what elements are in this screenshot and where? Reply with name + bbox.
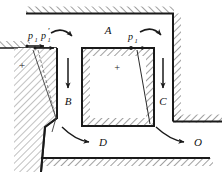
top-ground-mass [26, 7, 174, 14]
plus-mark-center: + [114, 62, 121, 73]
label-p1-left-subscript: 1 [35, 36, 38, 43]
label-p1-left-base: p [27, 30, 33, 41]
label-pressure-p1-prime-left: p 1 ' [40, 26, 51, 44]
label-p1-right-subscript: 1 [135, 37, 138, 44]
central-block-a [80, 46, 156, 128]
curved-arrow-o [156, 127, 184, 142]
rotation-arrow-right [140, 29, 161, 35]
curved-arrow-d [62, 127, 89, 142]
figure-canvas: + + A B C D O p 1 [0, 0, 222, 172]
plus-mark-left: + [18, 59, 25, 71]
diagram-svg: + + A B C D O p 1 [0, 0, 222, 172]
label-zone-c: C [159, 95, 167, 107]
bottom-ground-mass [41, 158, 213, 166]
label-p1-prime-subscript: 1 [48, 36, 51, 43]
label-p1-right-base: p [127, 31, 133, 42]
right-wall-mass [172, 14, 222, 123]
label-zone-d: D [98, 136, 107, 148]
rotation-arrow-left [51, 30, 72, 36]
label-pressure-p1-right: p 1 [127, 31, 138, 44]
label-zone-o: O [194, 136, 202, 148]
label-zone-b: B [65, 95, 72, 107]
label-p1-prime-base: p [40, 30, 46, 41]
label-block-a: A [104, 24, 112, 36]
label-p1-prime-mark: ' [48, 26, 51, 36]
